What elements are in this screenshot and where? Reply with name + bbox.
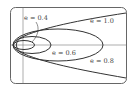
label-e-0-8: e = 0.8 [90, 57, 114, 65]
label-e-0-4: e = 0.4 [24, 14, 48, 22]
label-e-1-0: e = 1.0 [90, 17, 114, 25]
label-e-0-6: e = 0.6 [52, 49, 76, 57]
eccentricity-diagram: e = 0.4 e = 1.0 e = 0.6 e = 0.8 [0, 0, 130, 88]
